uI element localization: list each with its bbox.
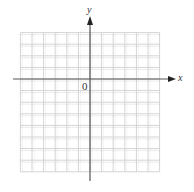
axes <box>13 16 176 181</box>
origin-label: 0 <box>82 81 88 92</box>
coordinate-plane: y x 0 <box>0 0 194 192</box>
y-axis-label: y <box>87 5 91 15</box>
x-axis-arrow-icon <box>168 76 176 82</box>
y-axis-arrow-icon <box>87 16 93 25</box>
x-axis-label: x <box>178 73 182 83</box>
grid-svg <box>0 0 194 192</box>
